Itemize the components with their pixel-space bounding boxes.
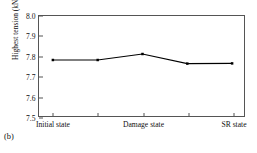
series-layer xyxy=(39,16,244,116)
x-tick-mark xyxy=(53,113,54,117)
data-point-marker xyxy=(231,62,233,64)
x-tick-label: SR state xyxy=(221,120,246,129)
y-tick-mark xyxy=(39,97,43,98)
y-tick-label: 7.5 xyxy=(26,114,36,123)
x-tick-mark xyxy=(98,113,99,117)
y-tick-label: 7.8 xyxy=(26,52,36,61)
data-point-marker xyxy=(141,53,143,55)
figure-caption: (b) xyxy=(4,132,14,141)
x-tick-label: Initial state xyxy=(36,120,70,129)
x-tick-label: Damage state xyxy=(123,120,164,129)
y-tick-mark xyxy=(39,77,43,78)
y-tick-mark xyxy=(39,118,43,119)
y-tick-label: 8.0 xyxy=(26,12,36,21)
x-tick-mark xyxy=(143,113,144,117)
plot-area: 7.57.67.77.87.98.0Initial stateDamage st… xyxy=(38,15,245,117)
x-tick-mark xyxy=(234,113,235,117)
figure-panel: Highest tension (kN) 7.57.67.77.87.98.0I… xyxy=(0,0,257,153)
y-tick-label: 7.6 xyxy=(26,93,36,102)
data-point-marker xyxy=(52,59,54,61)
y-tick-mark xyxy=(39,56,43,57)
y-axis-title: Highest tension (kN) xyxy=(11,0,20,81)
y-tick-mark xyxy=(39,36,43,37)
series-line xyxy=(53,54,232,64)
x-tick-mark xyxy=(188,113,189,117)
y-tick-label: 7.7 xyxy=(26,73,36,82)
y-tick-mark xyxy=(39,16,43,17)
data-point-marker xyxy=(186,62,188,64)
data-point-marker xyxy=(96,59,98,61)
y-tick-label: 7.9 xyxy=(26,32,36,41)
